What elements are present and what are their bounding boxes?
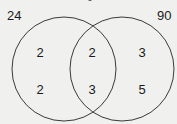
intersection-top: 2 (88, 46, 95, 59)
circle-right (70, 17, 174, 121)
intersection-bottom: 3 (88, 83, 95, 96)
left-only-top: 2 (36, 46, 43, 59)
circle-left (12, 17, 116, 121)
right-only-top: 3 (138, 46, 145, 59)
left-set-label: 24 (7, 9, 21, 22)
right-only-bottom: 5 (138, 83, 145, 96)
left-only-bottom: 2 (36, 83, 43, 96)
right-set-label: 90 (157, 9, 171, 22)
venn-diagram (0, 0, 177, 124)
